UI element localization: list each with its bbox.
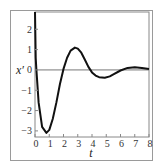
line-chart: 012345678 −3−2−1012 t x′ [0, 0, 163, 168]
y-tick-label: −3 [21, 125, 32, 136]
x-tick-label: 7 [133, 138, 138, 149]
x-tick-label: 8 [148, 138, 153, 149]
x-tick-label: 0 [34, 138, 39, 149]
x-tick-label: 5 [105, 138, 110, 149]
y-tick-label: 0 [27, 64, 32, 75]
y-tick-label: −2 [21, 105, 32, 116]
y-tick-label: 2 [27, 24, 32, 35]
x-axis-ticks: 012345678 [34, 134, 153, 149]
y-tick-label: 1 [27, 44, 32, 55]
x-tick-label: 2 [62, 138, 67, 149]
x-tick-label: 3 [76, 138, 81, 149]
x-tick-label: 1 [48, 138, 53, 149]
y-axis-label: x′ [15, 63, 24, 77]
data-series-line [35, 12, 149, 133]
y-tick-label: −1 [21, 85, 32, 96]
x-tick-label: 6 [119, 138, 124, 149]
